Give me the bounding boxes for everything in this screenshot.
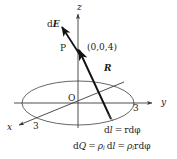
point-p-marker [77,49,79,51]
dl-equals: = [115,125,123,135]
point-p-coordinates: (0,0,4) [87,43,117,52]
dq-rho-1-subscript: l [103,145,105,151]
x-axis-line [19,82,124,125]
de-vector-label: dE [47,20,60,29]
dq-equals-1: = [88,141,96,151]
equation-dl: dl=rdφ [104,126,141,135]
y-axis-label: y [161,98,166,107]
point-p-label: P [60,44,66,53]
dq-mid-l: l [113,141,116,151]
r-vector-label: R [104,64,111,73]
z-axis-label: z [77,3,82,12]
dl-l: l [110,125,113,135]
de-vector-symbol-e: E [53,19,60,29]
dq-rhs: rdφ [134,141,150,151]
x-axis-tick-label: 3 [33,122,39,131]
x-axis-label: x [7,123,12,132]
figure-canvas: z y x O 3 3 P (0,0,4) dE R dl=rdφ dQ=ρld… [0,0,177,159]
physics-diagram-svg [0,0,177,159]
dq-q: Q [79,141,86,151]
origin-label: O [68,94,75,103]
source-element-tick [108,114,113,121]
equation-dq: dQ=ρldl=ρlrdφ [73,142,150,152]
dl-rhs: rdφ [124,125,140,135]
y-axis-tick-label: 3 [133,104,139,113]
dq-equals-2: = [117,141,125,151]
r-vector-arrow [79,50,111,119]
